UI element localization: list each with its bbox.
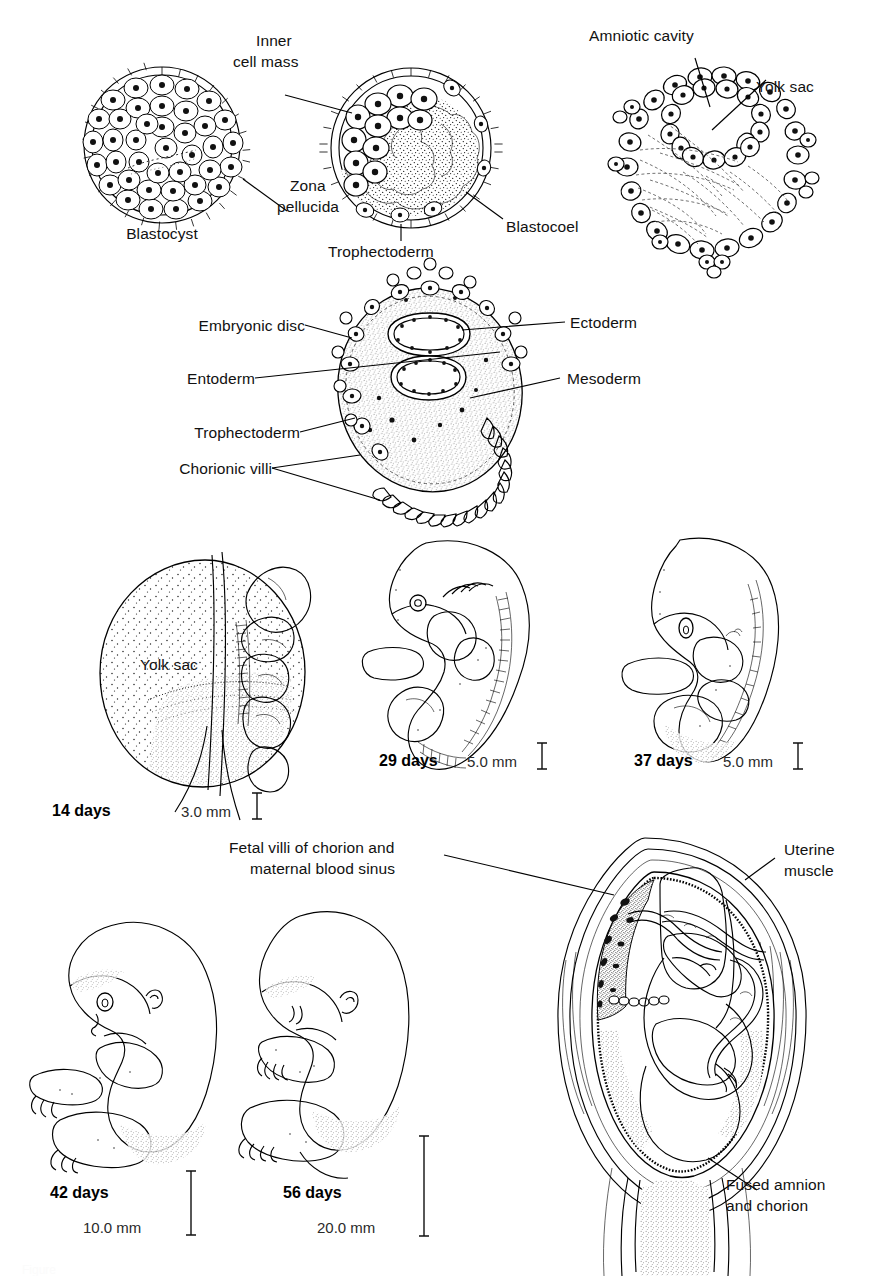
label-fused-amnion-line1: Fused amnion [726,1175,825,1194]
label-fetal-villi-line1: Fetal villi of chorion and [229,838,394,857]
label-ectoderm: Ectoderm [570,313,637,332]
figure-artwork [0,0,873,1276]
stage-label-29-days: 29 days [379,751,438,770]
label-zona-pellucida-line2: pellucida [277,197,339,216]
stage-label-37-days: 37 days [634,751,693,770]
art-stage-29-days [362,541,529,770]
label-blastocoel: Blastocoel [506,217,579,236]
label-embryonic-disc: Embryonic disc [145,316,305,335]
scale-label-14-days: 3.0 mm [181,803,231,821]
label-uterine-muscle-line2: muscle [784,861,834,880]
scale-bar-37-days [791,741,805,771]
cut-off-caption: Figure [22,1263,56,1276]
label-yolk-sac-top: Yolk sac [756,77,814,96]
label-inner-cell-mass-line2: cell mass [233,52,299,71]
art-blastocyst [82,63,287,230]
art-implanted-conceptus [255,258,565,527]
scale-label-37-days: 5.0 mm [723,753,773,771]
art-stage-56-days [239,912,409,1178]
scale-bar-29-days [535,741,549,771]
label-zona-pellucida-line1: Zona [290,176,326,195]
stage-label-14-days: 14 days [52,801,111,820]
scale-bar-56-days [417,1134,431,1238]
stage-label-56-days: 56 days [283,1183,342,1202]
art-stage-42-days [30,922,217,1173]
scale-label-56-days: 20.0 mm [317,1219,375,1237]
label-uterine-muscle-line1: Uterine [784,840,835,859]
art-stage-14-days [100,552,311,820]
art-stage-37-days [622,538,779,763]
label-trophectoderm-mid: Trophectoderm [140,423,300,442]
label-fused-amnion-line2: and chorion [726,1196,808,1215]
label-yolk-sac-inner: Yolk sac [140,655,198,674]
label-inner-cell-mass-line1: Inner [256,31,292,50]
scale-label-42-days: 10.0 mm [83,1219,141,1237]
scale-bar-42-days [184,1169,198,1237]
label-mesoderm: Mesoderm [567,369,641,388]
label-trophectoderm-top: Trophectoderm [328,242,434,261]
label-chorionic-villi: Chorionic villi [130,459,272,478]
label-fetal-villi-line2: maternal blood sinus [250,859,395,878]
scale-label-29-days: 5.0 mm [467,753,517,771]
label-amniotic-cavity: Amniotic cavity [589,26,694,45]
figure-page: Blastocyst Inner cell mass Zona pellucid… [0,0,873,1276]
stage-label-42-days: 42 days [50,1183,109,1202]
label-blastocyst: Blastocyst [92,224,232,243]
scale-bar-14-days [250,791,264,821]
label-entoderm: Entoderm [145,369,255,388]
